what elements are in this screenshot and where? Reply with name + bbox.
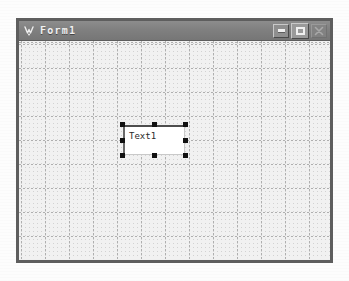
close-icon (314, 26, 324, 36)
maximize-button[interactable] (291, 23, 309, 39)
form-design-surface[interactable]: Text1 (19, 41, 330, 259)
resize-handle-e[interactable] (183, 138, 188, 143)
resize-handle-w[interactable] (120, 138, 125, 143)
close-button[interactable] (311, 24, 327, 38)
maximize-icon (296, 27, 305, 35)
textbox-value: Text1 (125, 127, 184, 141)
textbox-control[interactable]: Text1 (123, 125, 185, 155)
form-designer-window[interactable]: Form1 (16, 18, 333, 263)
vb-form-icon (23, 24, 36, 37)
minimize-icon (278, 29, 285, 32)
resize-handle-s[interactable] (152, 153, 157, 158)
resize-handle-se[interactable] (183, 153, 188, 158)
window-title: Form1 (40, 26, 76, 36)
resize-handle-ne[interactable] (183, 122, 188, 127)
minimize-button[interactable] (273, 24, 289, 38)
resize-handle-sw[interactable] (120, 153, 125, 158)
resize-handle-n[interactable] (152, 122, 157, 127)
page-background: Form1 (0, 0, 349, 281)
window-controls (273, 23, 328, 39)
resize-handle-nw[interactable] (120, 122, 125, 127)
selected-control-textbox[interactable]: Text1 (123, 125, 185, 155)
title-bar[interactable]: Form1 (19, 21, 330, 41)
